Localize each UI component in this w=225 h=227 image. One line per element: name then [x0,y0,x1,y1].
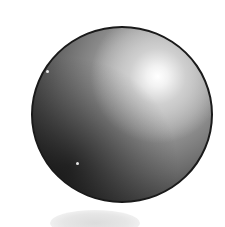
illustration-canvas [0,0,225,227]
highlight-speck [76,162,79,165]
shaded-sphere [31,26,213,203]
highlight-speck [46,70,49,73]
sphere-shadow [50,210,140,227]
